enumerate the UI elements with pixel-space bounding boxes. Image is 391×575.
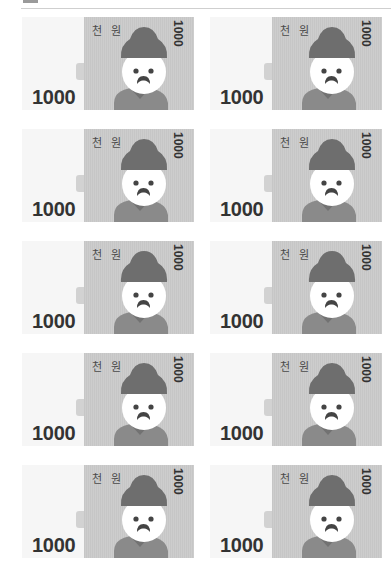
denomination-vertical: 1000: [171, 20, 185, 47]
banknote: 천 원 1000 1000: [210, 17, 372, 110]
banknote: 천 원 1000 1000: [22, 353, 184, 446]
banknote-face: 천 원 1000: [84, 17, 194, 110]
banknote: 천 원 1000 1000: [22, 241, 184, 334]
korean-won-label: 천 원: [92, 134, 124, 150]
banknote-face: 천 원 1000: [272, 17, 382, 110]
banknote: 천 원 1000 1000: [22, 129, 184, 222]
denomination-vertical: 1000: [359, 468, 373, 495]
korean-won-label: 천 원: [280, 358, 312, 374]
korean-won-label: 천 원: [280, 134, 312, 150]
denomination-vertical: 1000: [171, 468, 185, 495]
denomination-large: 1000: [220, 198, 263, 221]
denomination-large: 1000: [32, 310, 75, 333]
header-mark: [23, 0, 38, 3]
banknote-face: 천 원 1000: [84, 129, 194, 222]
banknote: 천 원 1000 1000: [22, 465, 184, 558]
denomination-vertical: 1000: [359, 244, 373, 271]
banknote: 천 원 1000 1000: [210, 241, 372, 334]
denomination-large: 1000: [32, 534, 75, 557]
denomination-large: 1000: [220, 422, 263, 445]
denomination-vertical: 1000: [359, 356, 373, 383]
denomination-large: 1000: [32, 422, 75, 445]
banknote-face: 천 원 1000: [272, 353, 382, 446]
korean-won-label: 천 원: [92, 246, 124, 262]
denomination-vertical: 1000: [359, 132, 373, 159]
denomination-large: 1000: [220, 534, 263, 557]
banknote: 천 원 1000 1000: [210, 465, 372, 558]
korean-won-label: 천 원: [92, 358, 124, 374]
denomination-vertical: 1000: [171, 356, 185, 383]
banknote: 천 원 1000 1000: [210, 353, 372, 446]
banknote-face: 천 원 1000: [272, 129, 382, 222]
denomination-vertical: 1000: [171, 132, 185, 159]
korean-won-label: 천 원: [92, 22, 124, 38]
denomination-vertical: 1000: [359, 20, 373, 47]
banknote-face: 천 원 1000: [84, 353, 194, 446]
banknote: 천 원 1000 1000: [22, 17, 184, 110]
banknote-face: 천 원 1000: [84, 241, 194, 334]
banknote-grid: 천 원 1000 1000 천 원 10: [22, 17, 372, 558]
banknote: 천 원 1000 1000: [210, 129, 372, 222]
banknote-face: 천 원 1000: [272, 465, 382, 558]
header-divider: [21, 8, 391, 9]
korean-won-label: 천 원: [280, 246, 312, 262]
denomination-large: 1000: [220, 86, 263, 109]
korean-won-label: 천 원: [280, 22, 312, 38]
denomination-large: 1000: [32, 198, 75, 221]
denomination-large: 1000: [220, 310, 263, 333]
banknote-face: 천 원 1000: [84, 465, 194, 558]
denomination-large: 1000: [32, 86, 75, 109]
banknote-face: 천 원 1000: [272, 241, 382, 334]
denomination-vertical: 1000: [171, 244, 185, 271]
korean-won-label: 천 원: [92, 470, 124, 486]
korean-won-label: 천 원: [280, 470, 312, 486]
